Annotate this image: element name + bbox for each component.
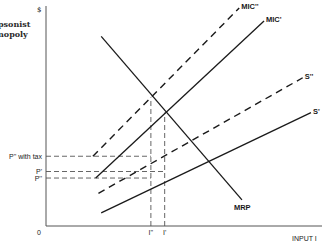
curves xyxy=(93,8,311,213)
y-axis-label: $ xyxy=(37,6,41,14)
chart: psonist nopoly $ 0 INPUT I P'' with taxP… xyxy=(0,0,324,243)
curve-label-4: S' xyxy=(313,107,320,116)
curve-micp xyxy=(96,21,264,178)
origin-label: 0 xyxy=(37,229,41,236)
curve-sp xyxy=(101,113,311,213)
reference-label-0: P'' with tax xyxy=(9,153,43,160)
x-axis-label: INPUT I xyxy=(292,235,317,242)
curve-spp xyxy=(98,78,302,194)
reference-label-3: I'' xyxy=(149,229,154,236)
curve-label-2: MIC' xyxy=(266,15,282,24)
curve-label-1: MIC'' xyxy=(241,2,259,11)
curve-micpp xyxy=(93,8,239,156)
reference-label-2: P'' xyxy=(35,175,42,182)
curve-label-0: MRP xyxy=(234,203,251,212)
chart-title-line-2: nopoly xyxy=(0,29,28,39)
reference-label-4: I' xyxy=(163,229,166,236)
curve-label-3: S'' xyxy=(305,72,314,81)
curve-labels: MRPMIC''MIC'S''S' xyxy=(234,2,320,212)
reference-lines: P'' with taxP'P''I''I' xyxy=(9,97,166,236)
chart-title-line-1: psonist xyxy=(0,19,31,29)
